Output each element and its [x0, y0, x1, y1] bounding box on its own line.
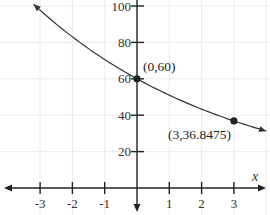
x-tick-label: 1 — [166, 196, 173, 211]
y-tick-label: 60 — [118, 71, 131, 86]
data-point — [133, 75, 140, 82]
x-axis-right-arrow-icon — [258, 185, 266, 192]
y-axis-down-arrow-icon — [134, 204, 141, 212]
x-tick-label: -1 — [99, 196, 110, 211]
x-tick-label: -2 — [67, 196, 78, 211]
data-point-label: (0,60) — [143, 59, 176, 74]
data-point — [230, 117, 237, 124]
y-tick-label: 100 — [112, 0, 132, 14]
axes — [4, 0, 266, 212]
exponential-chart: -3-2-112320406080100 (0,60)(3,36.8475) x — [0, 0, 270, 215]
points: (0,60)(3,36.8475) — [133, 59, 237, 142]
curve-right-arrow-icon — [259, 126, 267, 132]
x-tick-label: 3 — [231, 196, 238, 211]
x-tick-label: 2 — [198, 196, 205, 211]
x-axis-label: x — [251, 169, 259, 184]
y-tick-label: 40 — [118, 108, 131, 123]
y-tick-label: 20 — [118, 144, 131, 159]
data-point-label: (3,36.8475) — [168, 127, 231, 142]
x-tick-label: -3 — [35, 196, 46, 211]
x-axis-left-arrow-icon — [4, 185, 12, 192]
y-tick-label: 80 — [118, 35, 131, 50]
